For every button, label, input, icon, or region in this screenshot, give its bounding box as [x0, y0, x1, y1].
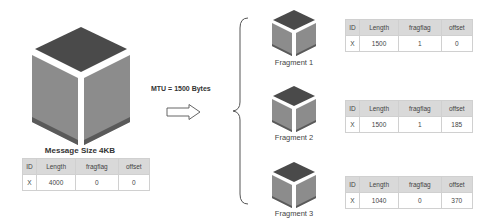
right-arrow-icon	[166, 104, 202, 120]
table-row: X 1040 0 370	[346, 193, 473, 209]
cell-id: X	[346, 117, 360, 133]
message-size-caption: Message Size 4KB	[20, 146, 140, 155]
cell-offset: 0	[118, 175, 149, 191]
table-row: X 1500 1 0	[346, 36, 473, 52]
mtu-label: MTU = 1500 Bytes	[151, 85, 211, 92]
header-fragflag: fragflag	[399, 101, 441, 117]
header-fragflag: fragflag	[76, 159, 118, 175]
curly-brace-icon	[228, 16, 252, 206]
fragment-3-table: ID Length fragflag offset X 1040 0 370	[345, 176, 473, 209]
cell-offset: 370	[441, 193, 472, 209]
cell-length: 4000	[37, 175, 76, 191]
fragment-1-cube-icon	[270, 8, 320, 58]
cell-fragflag: 0	[76, 175, 118, 191]
header-length: Length	[360, 101, 399, 117]
fragment-3-caption: Fragment 3	[267, 209, 321, 218]
header-offset: offset	[441, 101, 472, 117]
cell-offset: 185	[441, 117, 472, 133]
fragment-1-caption: Fragment 1	[267, 58, 321, 67]
fragment-2-caption: Fragment 2	[267, 133, 321, 142]
header-id: ID	[23, 159, 37, 175]
fragment-2-table: ID Length fragflag offset X 1500 1 185	[345, 100, 473, 133]
header-offset: offset	[118, 159, 149, 175]
header-offset: offset	[441, 177, 472, 193]
cell-length: 1500	[360, 117, 399, 133]
header-id: ID	[346, 177, 360, 193]
table-row: X 4000 0 0	[23, 175, 150, 191]
table-row: X 1500 1 185	[346, 117, 473, 133]
cell-fragflag: 1	[399, 36, 441, 52]
header-length: Length	[37, 159, 76, 175]
message-cube-icon	[20, 22, 150, 152]
header-id: ID	[346, 101, 360, 117]
header-length: Length	[360, 20, 399, 36]
fragment-1-table: ID Length fragflag offset X 1500 1 0	[345, 19, 473, 52]
original-packet-table: ID Length fragflag offset X 4000 0 0	[22, 158, 150, 191]
cell-length: 1040	[360, 193, 399, 209]
cell-fragflag: 1	[399, 117, 441, 133]
cell-id: X	[346, 36, 360, 52]
fragment-3-cube-icon	[270, 160, 320, 210]
header-fragflag: fragflag	[399, 177, 441, 193]
cell-id: X	[346, 193, 360, 209]
cell-id: X	[23, 175, 37, 191]
header-offset: offset	[441, 20, 472, 36]
cell-fragflag: 0	[399, 193, 441, 209]
fragment-2-cube-icon	[270, 84, 320, 134]
header-length: Length	[360, 177, 399, 193]
cell-length: 1500	[360, 36, 399, 52]
cell-offset: 0	[441, 36, 472, 52]
header-fragflag: fragflag	[399, 20, 441, 36]
header-id: ID	[346, 20, 360, 36]
